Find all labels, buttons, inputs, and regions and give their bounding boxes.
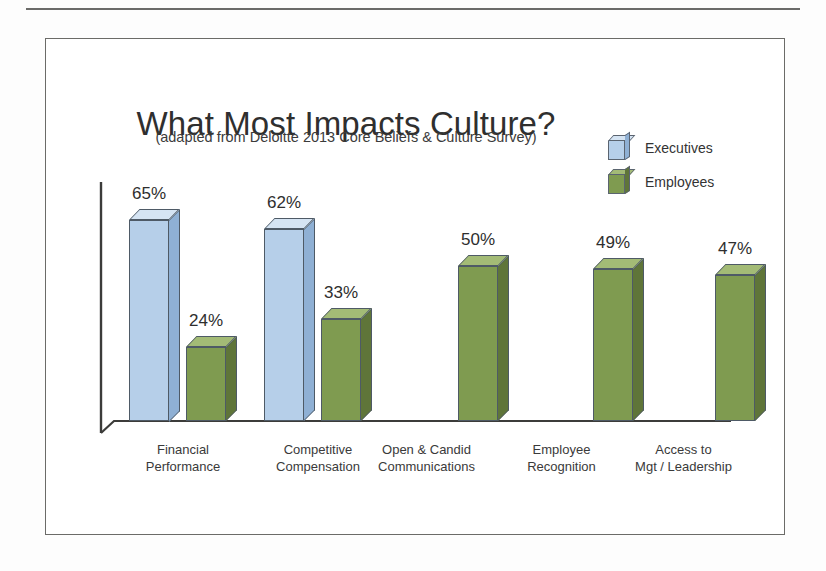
bar-value-label: 24% <box>173 311 239 331</box>
bar-front-face <box>186 347 226 421</box>
bar-side-face <box>304 218 315 421</box>
chart-plot-area: 65%62%24%33%50%49%47%FinancialPerformanc… <box>46 39 786 536</box>
bar-front-face <box>715 275 755 421</box>
bar-side-face <box>755 264 766 421</box>
bar-employees-4[interactable] <box>715 275 755 421</box>
category-label-line: Mgt / Leadership <box>604 458 764 475</box>
bar-side-face <box>633 258 644 421</box>
bar-side-face <box>226 336 237 421</box>
bar-front-face <box>458 266 498 421</box>
bar-executives-1[interactable] <box>264 229 304 421</box>
bar-value-label: 50% <box>445 230 511 250</box>
bar-side-face <box>498 255 509 421</box>
bar-executives-0[interactable] <box>129 220 169 422</box>
bar-employees-0[interactable] <box>186 347 226 421</box>
bar-employees-3[interactable] <box>593 269 633 421</box>
bar-front-face <box>593 269 633 421</box>
category-label-line: Access to <box>604 441 764 458</box>
bar-front-face <box>321 319 361 421</box>
bar-front-face <box>264 229 304 421</box>
bar-value-label: 33% <box>308 283 374 303</box>
bar-value-label: 49% <box>580 233 646 253</box>
bar-side-face <box>361 308 372 421</box>
bar-value-label: 47% <box>702 239 768 259</box>
bar-front-face <box>129 220 169 422</box>
category-label-4: Access toMgt / Leadership <box>604 441 764 475</box>
bar-value-label: 62% <box>251 193 317 213</box>
bar-employees-2[interactable] <box>458 266 498 421</box>
slide-frame: What Most Impacts Culture? (adapted from… <box>45 38 785 535</box>
page-top-rule <box>26 8 800 10</box>
bar-value-label: 65% <box>116 184 182 204</box>
bar-employees-1[interactable] <box>321 319 361 421</box>
